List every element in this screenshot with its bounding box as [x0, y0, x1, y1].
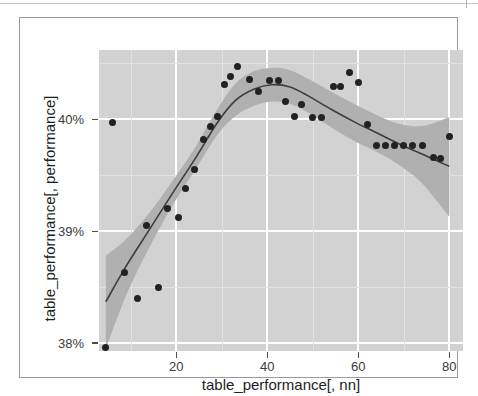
scatter-point	[337, 83, 344, 90]
scatter-point	[346, 69, 353, 76]
x-tick-mark	[358, 352, 360, 358]
x-tick-label: 60	[338, 359, 378, 374]
scatter-point	[102, 344, 109, 351]
scatter-points-layer	[99, 50, 463, 351]
scatter-point	[400, 142, 407, 149]
scatter-point	[291, 113, 298, 120]
scatter-point	[234, 63, 241, 70]
scatter-point	[155, 284, 162, 291]
scatter-point	[266, 77, 273, 84]
scatter-point	[382, 142, 389, 149]
y-tick-mark	[92, 231, 98, 233]
chart-figure-frame: 38%39%40% 20406080 table_performance[, n…	[19, 17, 458, 378]
scatter-point	[175, 214, 182, 221]
scatter-point	[430, 154, 437, 161]
y-axis-title: table_performance[, performance]	[41, 58, 58, 359]
x-axis-title: table_performance[, nn]	[99, 376, 463, 393]
scatter-point	[355, 79, 362, 86]
plot-panel	[99, 50, 463, 351]
scatter-point	[275, 77, 282, 84]
top-divider-rule	[0, 3, 478, 4]
scatter-point	[121, 269, 128, 276]
scatter-point	[446, 133, 453, 140]
scatter-point	[318, 114, 325, 121]
x-tick-mark	[267, 352, 269, 358]
scatter-point	[214, 113, 221, 120]
x-tick-mark	[176, 352, 178, 358]
y-tick-mark	[92, 119, 98, 121]
scatter-point	[143, 222, 150, 229]
scatter-point	[221, 81, 228, 88]
scatter-point	[282, 98, 289, 105]
scatter-point	[391, 142, 398, 149]
scatter-point	[364, 121, 371, 128]
y-tick-mark	[92, 342, 98, 344]
scatter-point	[330, 83, 337, 90]
scatter-point	[298, 101, 305, 108]
scatter-point	[207, 123, 214, 130]
x-tick-label: 80	[429, 359, 469, 374]
scatter-point	[246, 76, 253, 83]
x-tick-label: 20	[156, 359, 196, 374]
scatter-point	[419, 142, 426, 149]
screenshot-root: 38%39%40% 20406080 table_performance[, n…	[0, 0, 478, 396]
scatter-point	[164, 205, 171, 212]
x-tick-label: 40	[247, 359, 287, 374]
scatter-point	[437, 155, 444, 162]
scatter-point	[409, 142, 416, 149]
scatter-point	[134, 295, 141, 302]
scatter-point	[109, 119, 116, 126]
scatter-point	[309, 114, 316, 121]
x-tick-mark	[449, 352, 451, 358]
scatter-point	[191, 166, 198, 173]
top-tick-mark	[466, 0, 467, 8]
scatter-point	[255, 88, 262, 95]
scatter-point	[200, 136, 207, 143]
scatter-point	[227, 73, 234, 80]
scatter-point	[182, 185, 189, 192]
scatter-point	[373, 142, 380, 149]
